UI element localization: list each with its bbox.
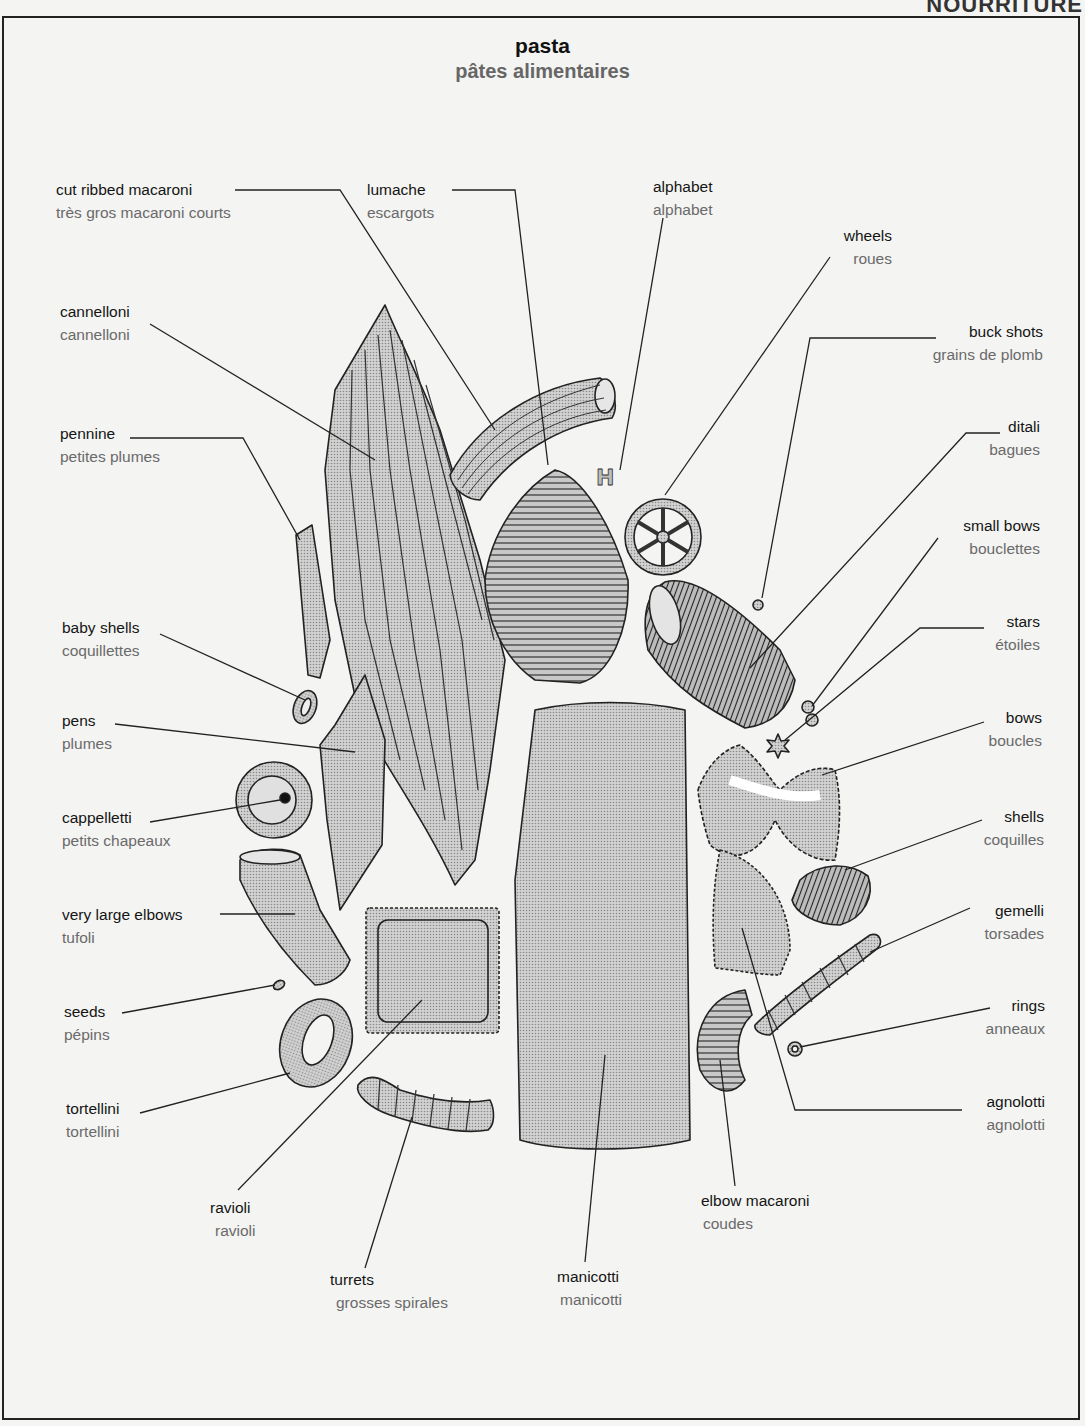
- leader-baby-shells: [160, 634, 305, 700]
- elbow-macaroni-shape: [697, 990, 752, 1091]
- label-bows: bowsboucles: [989, 706, 1042, 752]
- label-cannelloni: cannellonicannelloni: [60, 300, 130, 346]
- lumache-shape: [485, 470, 628, 683]
- leader-pens: [115, 724, 355, 752]
- label-pens: pensplumes: [62, 709, 112, 755]
- leader-wheels: [665, 257, 830, 495]
- label-gemelli: gemellitorsades: [985, 899, 1044, 945]
- label-cut-ribbed-macaroni: cut ribbed macaronitrès gros macaroni co…: [56, 178, 231, 224]
- label-agnolotti: agnolottiagnolotti: [986, 1090, 1045, 1136]
- cut-ribbed-macaroni-shape: [450, 378, 615, 500]
- pennine-shape: [296, 525, 330, 678]
- leader-small-bows: [812, 538, 938, 706]
- buck-shots-shape: [753, 600, 763, 610]
- pens-shape: [320, 675, 385, 910]
- label-alphabet: alphabetalphabet: [653, 175, 712, 221]
- leader-turrets: [365, 1117, 412, 1268]
- label-tortellini: tortellinitortellini: [66, 1097, 119, 1143]
- label-shells: shellscoquilles: [984, 805, 1044, 851]
- label-manicotti: manicottimanicotti: [557, 1265, 622, 1311]
- label-wheels: wheelsroues: [844, 224, 892, 270]
- label-small-bows: small bowsbouclettes: [963, 514, 1040, 560]
- shells-shape: [792, 866, 870, 925]
- label-elbow-macaroni: elbow macaronicoudes: [701, 1189, 810, 1235]
- label-turrets: turretsgrosses spirales: [330, 1268, 448, 1314]
- small-bows-shape: [802, 701, 814, 713]
- label-cappelletti: cappellettipetits chapeaux: [62, 806, 171, 852]
- stars-shape: [767, 734, 789, 758]
- label-pennine: penninepetites plumes: [60, 422, 160, 468]
- label-lumache: lumacheescargots: [367, 178, 434, 224]
- leader-buck-shots: [762, 338, 936, 598]
- bows-shape: [698, 745, 840, 860]
- label-rings: ringsanneaux: [986, 994, 1045, 1040]
- label-very-large-elbows: very large elbowstufoli: [62, 903, 183, 949]
- leader-alphabet: [620, 218, 663, 470]
- label-seeds: seedspépins: [64, 1000, 110, 1046]
- leader-bows: [822, 722, 984, 775]
- leader-gemelli: [870, 908, 970, 952]
- leader-seeds: [122, 985, 275, 1013]
- label-baby-shells: baby shellscoquillettes: [62, 616, 140, 662]
- label-ditali: ditalibagues: [989, 415, 1040, 461]
- leader-shells: [845, 820, 982, 870]
- leader-tortellini: [140, 1073, 290, 1113]
- alphabet-shape: H: [596, 465, 614, 490]
- label-ravioli: ravioliravioli: [210, 1196, 255, 1242]
- leader-rings: [800, 1008, 990, 1047]
- label-stars: starsétoiles: [995, 610, 1040, 656]
- agnolotti-shape: [713, 850, 790, 975]
- label-buck-shots: buck shotsgrains de plomb: [933, 320, 1043, 366]
